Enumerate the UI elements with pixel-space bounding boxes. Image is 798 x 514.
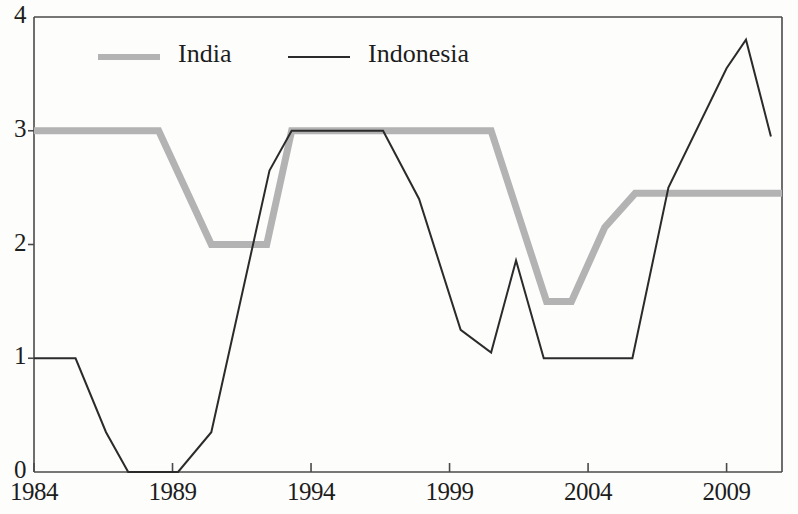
x-axis-tick-label-1989: 1989 bbox=[118, 478, 228, 506]
x-axis-tick-label-2009: 2009 bbox=[672, 478, 782, 506]
y-axis-tick-label-4: 4 bbox=[0, 1, 26, 29]
x-axis-tick-label-2004: 2004 bbox=[533, 478, 643, 506]
chart-series-lines bbox=[34, 40, 782, 472]
series-line-indonesia bbox=[34, 40, 771, 472]
chart-tick-marks bbox=[28, 131, 727, 472]
legend-label-india: India bbox=[178, 39, 231, 69]
chart-plot-area bbox=[0, 0, 798, 514]
x-axis-tick-label-1994: 1994 bbox=[256, 478, 366, 506]
x-axis-tick-label-1999: 1999 bbox=[395, 478, 505, 506]
y-axis-tick-label-1: 1 bbox=[0, 342, 26, 370]
x-axis-tick-label-1984: 1984 bbox=[0, 478, 89, 506]
chart-container: 4 3 2 1 0 1984 1989 1994 1999 2004 2009 … bbox=[0, 0, 798, 514]
y-axis-tick-label-3: 3 bbox=[0, 115, 26, 143]
y-axis-tick-label-2: 2 bbox=[0, 229, 26, 257]
chart-axes bbox=[34, 17, 782, 472]
series-line-india bbox=[34, 131, 782, 302]
legend-label-indonesia: Indonesia bbox=[368, 39, 469, 69]
